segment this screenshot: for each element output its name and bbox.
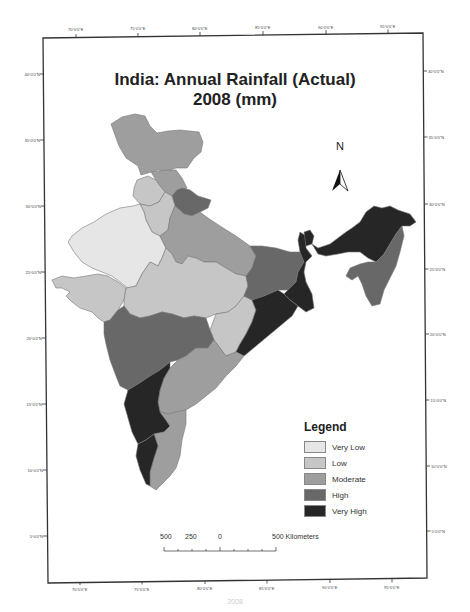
legend-swatch bbox=[304, 489, 326, 501]
svg-text:35°0'0"N: 35°0'0"N bbox=[24, 138, 40, 143]
legend-item-moderate: Moderate bbox=[304, 471, 394, 487]
region-sikkim bbox=[304, 230, 314, 246]
svg-text:35°0'0"N: 35°0'0"N bbox=[429, 135, 445, 140]
legend-swatch bbox=[304, 505, 326, 517]
svg-text:15°0'0"N: 15°0'0"N bbox=[431, 398, 447, 403]
legend-swatch bbox=[304, 473, 326, 485]
bottom-axis-labels: 70°0'0"E 75°0'0"E 80°0'0"E 85°0'0"E 90°0… bbox=[72, 585, 400, 593]
map-title-line1: India: Annual Rainfall (Actual) bbox=[0, 70, 470, 90]
svg-text:85°0'0"E: 85°0'0"E bbox=[255, 25, 271, 30]
svg-text:25°0'0"N: 25°0'0"N bbox=[25, 270, 41, 275]
svg-text:5°0'0"N: 5°0'0"N bbox=[30, 534, 43, 539]
north-arrow: N bbox=[330, 140, 360, 190]
svg-text:95°0'0"E: 95°0'0"E bbox=[384, 585, 400, 590]
legend-title: Legend bbox=[304, 420, 394, 434]
svg-text:80°0'0"E: 80°0'0"E bbox=[197, 586, 213, 591]
scale-bar: 500 250 0 500 Kilometers bbox=[155, 533, 335, 555]
scale-label-500-km: 500 Kilometers bbox=[272, 533, 319, 540]
svg-text:5°0'0"N: 5°0'0"N bbox=[432, 529, 445, 534]
svg-text:70°0'0"E: 70°0'0"E bbox=[72, 587, 88, 592]
left-axis-labels: 40°0'0"N 35°0'0"N 30°0'0"N 25°0'0"N 20°0… bbox=[24, 72, 43, 539]
svg-text:10°0'0"N: 10°0'0"N bbox=[27, 468, 43, 473]
svg-text:85°0'0"E: 85°0'0"E bbox=[259, 586, 275, 591]
scale-label-250: 250 bbox=[185, 533, 197, 540]
legend-label: Very Low bbox=[332, 443, 365, 452]
scale-label-500: 500 bbox=[160, 533, 172, 540]
svg-text:30°0'0"N: 30°0'0"N bbox=[25, 204, 41, 209]
legend-swatch bbox=[304, 457, 326, 469]
top-axis-labels: 70°0'0"E 75°0'0"E 80°0'0"E 85°0'0"E 90°0… bbox=[68, 24, 396, 32]
caption: 2008 bbox=[0, 598, 470, 605]
svg-text:20°0'0"N: 20°0'0"N bbox=[26, 336, 42, 341]
legend: Legend Very Low Low Moderate High Very H… bbox=[304, 420, 394, 519]
legend-item-high: High bbox=[304, 487, 394, 503]
svg-text:75°0'0"E: 75°0'0"E bbox=[130, 26, 146, 31]
svg-text:70°0'0"E: 70°0'0"E bbox=[68, 27, 84, 32]
north-label: N bbox=[336, 140, 344, 152]
legend-label: Moderate bbox=[332, 475, 366, 484]
legend-item-low: Low bbox=[304, 455, 394, 471]
region-jammu-kashmir bbox=[111, 114, 203, 175]
right-axis-labels: 40°0'0"N 35°0'0"N 30°0'0"N 25°0'0"N 20°0… bbox=[428, 69, 447, 534]
svg-text:90°0'0"E: 90°0'0"E bbox=[318, 25, 334, 30]
svg-text:90°0'0"E: 90°0'0"E bbox=[322, 585, 338, 590]
scale-label-0: 0 bbox=[218, 533, 222, 540]
svg-text:15°0'0"N: 15°0'0"N bbox=[26, 402, 42, 407]
svg-text:95°0'0"E: 95°0'0"E bbox=[380, 24, 396, 29]
legend-swatch bbox=[304, 441, 326, 453]
legend-item-very-high: Very High bbox=[304, 503, 394, 519]
svg-text:80°0'0"E: 80°0'0"E bbox=[192, 26, 208, 31]
svg-text:75°0'0"E: 75°0'0"E bbox=[134, 587, 150, 592]
legend-item-very-low: Very Low bbox=[304, 439, 394, 455]
legend-label: Low bbox=[332, 459, 347, 468]
svg-text:20°0'0"N: 20°0'0"N bbox=[430, 332, 446, 337]
map-title-line2: 2008 (mm) bbox=[0, 90, 470, 110]
legend-label: High bbox=[332, 491, 348, 500]
svg-text:10°0'0"N: 10°0'0"N bbox=[431, 464, 447, 469]
svg-text:25°0'0"N: 25°0'0"N bbox=[430, 267, 446, 272]
svg-text:30°0'0"N: 30°0'0"N bbox=[429, 202, 445, 207]
legend-label: Very High bbox=[332, 507, 367, 516]
